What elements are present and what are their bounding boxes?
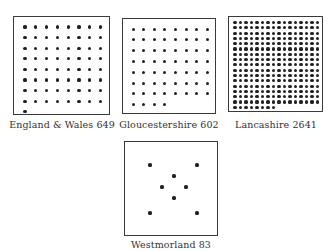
dot [283,53,286,56]
dot [299,69,302,72]
gloucestershire-box [122,18,216,114]
dot [77,68,80,71]
dot [45,36,48,39]
dot [299,26,302,29]
dot [266,37,269,40]
dot [299,42,302,45]
dot [277,74,280,77]
dot [272,21,275,24]
dot [45,25,48,28]
dot [34,89,37,92]
dot [316,58,319,61]
dot [56,100,59,103]
dot [255,37,258,40]
dot [99,68,102,71]
dot [233,32,236,35]
dot [185,38,188,41]
dot [239,106,242,109]
dot [132,71,135,74]
dot [244,74,247,77]
dot [277,58,280,61]
dot [316,47,319,50]
dot [299,53,302,56]
dot [195,71,198,74]
dot [261,26,264,29]
dot [23,47,26,50]
dot [294,47,297,50]
dot [272,79,275,82]
dot [294,26,297,29]
dot [56,68,59,71]
dot [185,28,188,31]
dot [316,69,319,72]
dot [99,100,102,103]
dot [244,32,247,35]
dot [239,69,242,72]
dot [283,79,286,82]
dot [288,79,291,82]
dot [244,69,247,72]
dot [206,71,209,74]
dot [99,36,102,39]
dot [88,25,91,28]
dot [67,47,70,50]
dot [56,57,59,60]
dot [250,95,253,98]
dot [277,42,280,45]
dot [288,26,291,29]
dot [294,100,297,103]
dot [299,37,302,40]
dot [23,57,26,60]
dot [255,74,258,77]
dot [77,100,80,103]
dot [250,79,253,82]
dot [299,47,302,50]
dot [132,103,135,106]
dot [288,95,291,98]
dot [132,28,135,31]
dot [163,103,166,106]
dot [316,100,319,103]
dot [239,58,242,61]
dot [88,47,91,50]
dot [272,95,275,98]
dot [153,82,156,85]
dot [316,95,319,98]
dot [255,42,258,45]
dot [272,69,275,72]
dot [305,42,308,45]
dot [23,110,26,113]
dot [255,53,258,56]
dot [277,21,280,24]
dot [305,53,308,56]
dot [310,42,313,45]
dot [233,47,236,50]
dot [142,49,145,52]
dot [294,63,297,66]
dot [310,58,313,61]
dot [310,95,313,98]
dot [239,74,242,77]
england-wales-box [13,16,110,115]
dot [153,49,156,52]
dot [255,47,258,50]
dot [294,21,297,24]
dot [239,21,242,24]
dot [261,42,264,45]
dot [250,100,253,103]
dot [283,100,286,103]
dot [310,79,313,82]
dot [233,90,236,93]
dot [250,37,253,40]
dot [67,89,70,92]
dot [261,69,264,72]
dot [185,82,188,85]
dot [153,60,156,63]
dot [250,63,253,66]
dot [67,78,70,81]
dot [294,90,297,93]
dot [233,53,236,56]
dot [316,21,319,24]
dot [277,95,280,98]
dot [206,92,209,95]
